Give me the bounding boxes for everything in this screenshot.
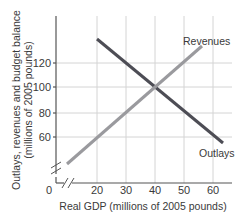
y-tick: 60 bbox=[39, 131, 51, 143]
x-tick: 60 bbox=[207, 184, 219, 196]
x-tick-labels: 0 20 30 40 50 60 bbox=[46, 184, 219, 196]
x-tick: 50 bbox=[178, 184, 190, 196]
outlays-label: Outlays bbox=[199, 147, 235, 159]
revenues-line bbox=[67, 46, 202, 164]
y-axis-label-line2: (millions of 2005 pounds) bbox=[22, 41, 34, 158]
revenues-label: Revenues bbox=[183, 35, 230, 47]
y-tick: 80 bbox=[39, 107, 51, 119]
y-axis-label-line1: Outlays, revenues and budget balance bbox=[10, 10, 22, 190]
x-tick: 30 bbox=[120, 184, 132, 196]
x-axis-label: Real GDP (millions of 2005 pounds) bbox=[59, 200, 226, 212]
x-tick: 20 bbox=[91, 184, 103, 196]
y-tick-labels: 120 100 80 60 bbox=[33, 57, 51, 143]
x-tick: 0 bbox=[46, 184, 52, 196]
x-tick: 40 bbox=[149, 184, 161, 196]
outlays-line bbox=[97, 39, 223, 143]
y-tick: 120 bbox=[33, 57, 51, 69]
chart: 120 100 80 60 0 20 30 40 50 60 Real GDP … bbox=[0, 0, 243, 220]
y-tick: 100 bbox=[33, 81, 51, 93]
